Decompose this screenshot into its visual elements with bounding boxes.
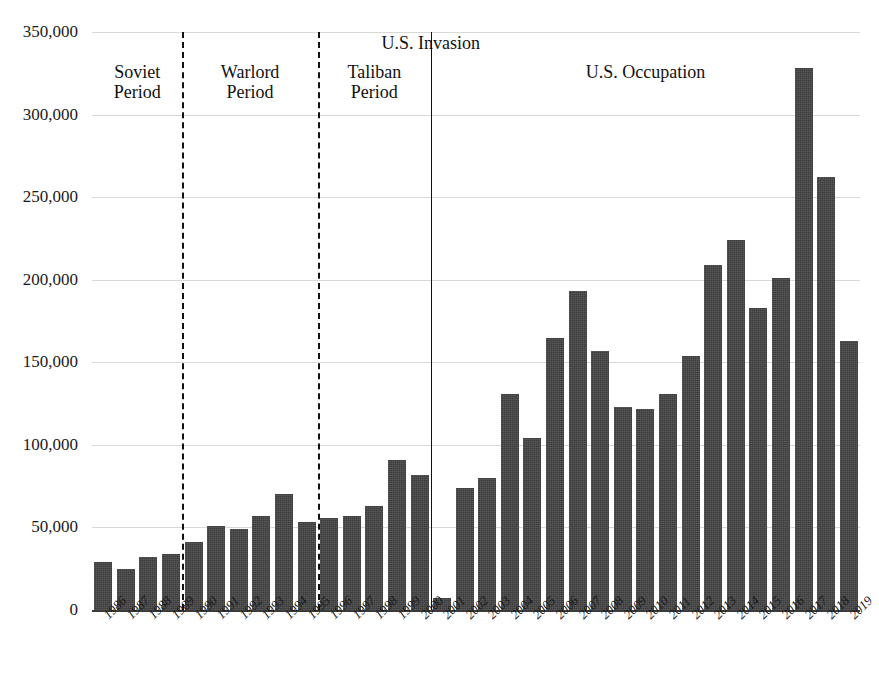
x-axis: 1986198719881989199019911992199319941995… (92, 612, 860, 672)
bar (501, 394, 519, 610)
y-tick-label: 300,000 (23, 106, 78, 123)
y-tick-label: 150,000 (23, 353, 78, 370)
y-tick-label: 100,000 (23, 436, 78, 453)
y-tick-label: 200,000 (23, 271, 78, 288)
us-occupation-label: U.S. Occupation (555, 62, 735, 82)
gridline (92, 115, 860, 116)
y-tick-label: 350,000 (23, 23, 78, 40)
bar (727, 240, 745, 610)
plot-area (92, 32, 860, 610)
bar-chart: 350,000300,000250,000200,000150,000100,0… (0, 0, 879, 673)
bar (749, 308, 767, 610)
bar (388, 460, 406, 610)
y-tick-label: 0 (70, 601, 79, 618)
bar (795, 68, 813, 610)
gridline (92, 362, 860, 363)
bar (659, 394, 677, 610)
bar (523, 438, 541, 610)
bar (411, 475, 429, 610)
bar (817, 177, 835, 610)
bar (614, 407, 632, 610)
bar (275, 494, 293, 610)
bar (636, 409, 654, 610)
us-invasion-label: U.S. Invasion (351, 34, 511, 54)
gridline (92, 445, 860, 446)
bar (569, 291, 587, 610)
y-tick-label: 250,000 (23, 188, 78, 205)
taliban-period-label: Taliban Period (284, 62, 464, 102)
warlord-taliban-divider (318, 32, 320, 610)
bar (682, 356, 700, 610)
gridline (92, 280, 860, 281)
bar (704, 265, 722, 610)
y-axis: 350,000300,000250,000200,000150,000100,0… (0, 32, 78, 610)
bar (772, 278, 790, 610)
bar (840, 341, 858, 610)
us-invasion-divider (431, 32, 432, 610)
bar (456, 488, 474, 610)
soviet-warlord-divider (182, 32, 184, 610)
gridline (92, 197, 860, 198)
y-tick-label: 50,000 (31, 518, 78, 535)
bar (478, 478, 496, 610)
bar (591, 351, 609, 610)
bar (546, 338, 564, 610)
